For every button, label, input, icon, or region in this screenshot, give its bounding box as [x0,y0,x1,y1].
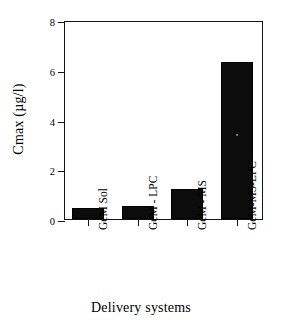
y-tick-label-2: 2 [50,167,55,178]
x-tick-3 [237,219,238,226]
y-tick-0: 0 [58,221,65,222]
x-tick-2 [187,219,188,226]
y-tick-8: 8 [58,22,65,23]
plot-area: 02468 [64,21,263,220]
y-tick-label-8: 8 [50,18,55,29]
y-tick-label-0: 0 [50,217,55,228]
y-tick-label-4: 4 [50,117,55,128]
y-tick-2: 2 [58,171,65,172]
x-tick-1 [138,219,139,226]
y-tick-6: 6 [58,72,65,73]
x-tick-0 [88,219,89,226]
category-label-0: GeM Sol [95,188,111,230]
category-label-2: GeM - MS [194,180,210,230]
category-label-3: GeM-MS-LPC [244,161,260,230]
y-axis-title: Cmax (µg/l) [8,64,30,174]
x-axis-title: Delivery systems [0,300,282,316]
y-tick-4: 4 [58,122,65,123]
y-tick-label-6: 6 [50,68,55,79]
category-label-1: GeM - LPC [145,176,161,230]
bar-chart-figure: Cmax (µg/l) 02468 GeM SolGeM - LPCGeM - … [0,0,282,330]
